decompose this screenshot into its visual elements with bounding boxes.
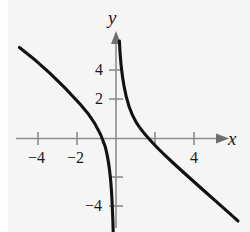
y-tick-label-4: 4: [95, 62, 103, 78]
y-tick-label--4: −4: [85, 198, 102, 214]
graph-figure: y x −4 −2 4 4 2 −4: [0, 0, 250, 232]
x-tick-label--2: −2: [67, 150, 84, 166]
y-tick-label-2: 2: [95, 91, 103, 107]
x-tick-label--4: −4: [28, 150, 45, 166]
x-tick-label-4: 4: [190, 150, 198, 166]
coordinate-plane-graphic: [0, 0, 250, 232]
x-axis-label: x: [228, 129, 236, 148]
y-axis-label: y: [108, 8, 116, 27]
x-axis: [16, 132, 229, 145]
curve-right-branch: [119, 41, 238, 221]
